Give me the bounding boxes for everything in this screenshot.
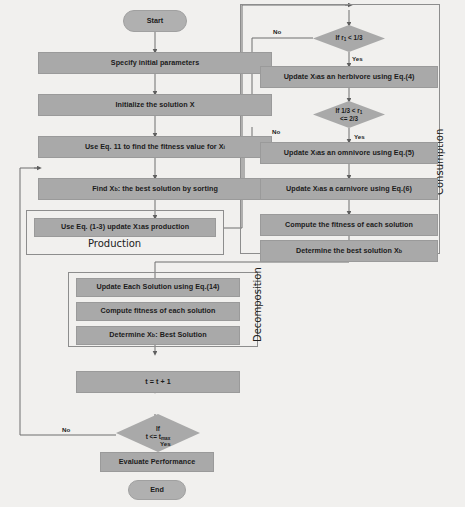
node-compute-fitness-consumption[interactable]: Compute the fitness of each solution xyxy=(260,214,438,236)
node-find-best-solution[interactable]: Find Xb: the best solution by sorting xyxy=(38,178,272,200)
node-start[interactable]: Start xyxy=(123,10,187,32)
decision-t-le-tmax[interactable]: If t <= tmax xyxy=(116,414,200,452)
node-update-eq14[interactable]: Update Each Solution using Eq.(14) xyxy=(76,278,240,297)
edge-label-no-2: No xyxy=(272,128,280,135)
node-evaluate-performance[interactable]: Evaluate Performance xyxy=(100,452,214,472)
node-increment-iteration[interactable]: t = t + 1 xyxy=(76,371,240,393)
group-label-decomposition: Decomposition xyxy=(252,267,263,342)
edge-label-yes-3: Yes xyxy=(160,440,171,447)
decision-label: If r1 < 1/3 xyxy=(313,25,385,52)
decision-label: If t <= tmax xyxy=(116,414,200,452)
node-update-carnivore[interactable]: Update Xi as a carnivore using Eq.(6) xyxy=(260,178,438,200)
decision-line-2: <= 2/3 xyxy=(340,115,358,122)
decision-r1-less-than-third[interactable]: If r1 < 1/3 xyxy=(313,25,385,52)
decision-line-1: If r1 < 1/3 xyxy=(336,34,363,42)
decision-r1-between-third-and-twothirds[interactable]: If 1/3 < r1 <= 2/3 xyxy=(313,101,385,128)
node-update-omnivore[interactable]: Update Xi as an omnivore using Eq.(5) xyxy=(260,142,438,164)
edge-label-yes-1: Yes xyxy=(352,55,363,62)
node-production-update[interactable]: Use Eq. (1-3) update X1 as production xyxy=(34,218,216,237)
edge-label-yes-2: Yes xyxy=(354,133,365,140)
node-initialize-solution[interactable]: Initialize the solution X xyxy=(38,94,272,116)
node-specify-parameters[interactable]: Specify initial parameters xyxy=(38,52,272,74)
node-update-herbivore[interactable]: Update Xi as an herbivore using Eq.(4) xyxy=(260,66,438,88)
node-end[interactable]: End xyxy=(128,480,186,500)
decision-line-1: If xyxy=(156,425,160,432)
node-determine-best-consumption[interactable]: Determine the best solution Xb xyxy=(260,240,438,262)
node-determine-best-decomposition[interactable]: Determine Xb : Best Solution xyxy=(76,326,240,345)
node-compute-fitness-decomposition[interactable]: Compute fitness of each solution xyxy=(76,302,240,321)
decision-line-1: If 1/3 < r1 xyxy=(336,107,363,115)
edge-label-no-1: No xyxy=(273,28,281,35)
flowchart-canvas: Production Consumption Decomposition Sta… xyxy=(0,0,465,507)
group-label-production: Production xyxy=(88,238,141,249)
node-fitness-eq11[interactable]: Use Eq. 11 to find the fitness value for… xyxy=(38,136,272,158)
decision-label: If 1/3 < r1 <= 2/3 xyxy=(313,101,385,128)
edge-label-no-3: No xyxy=(62,426,70,433)
